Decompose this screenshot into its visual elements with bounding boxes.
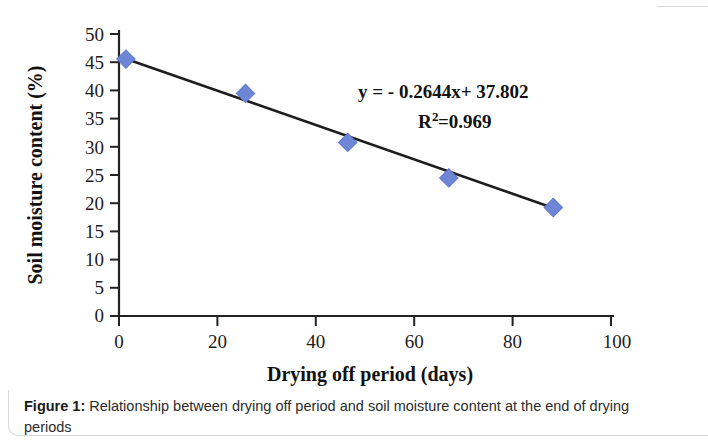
- scatter-plot: 0 5 10 15 20 25 30 35 40 45 50: [0, 0, 657, 390]
- y-tick-label-10: 10: [85, 249, 104, 270]
- figure-caption-label: Figure 1:: [24, 398, 85, 414]
- y-axis-title: Soil moisture content (%): [24, 65, 47, 284]
- x-tick-label-0: 0: [114, 331, 124, 352]
- y-tick-label-5: 5: [95, 277, 105, 298]
- y-tick-label-45: 45: [85, 52, 104, 73]
- y-tick-label-35: 35: [85, 108, 104, 129]
- y-tick-label-25: 25: [85, 165, 104, 186]
- r-squared-prefix: R: [418, 111, 432, 132]
- y-tick-label-15: 15: [85, 221, 104, 242]
- x-tick-label-60: 60: [405, 331, 424, 352]
- r-squared-value: =0.969: [438, 111, 492, 132]
- y-tick-label-0: 0: [95, 305, 105, 326]
- figure-caption-text: Relationship between drying off period a…: [24, 398, 629, 435]
- y-tick-label-20: 20: [85, 193, 104, 214]
- regression-equation-label: y = - 0.2644x+ 37.802: [358, 81, 528, 102]
- x-tick-label-100: 100: [603, 331, 632, 352]
- r-squared-label: R 2 =0.969: [418, 109, 492, 132]
- chart-figure: 0 5 10 15 20 25 30 35 40 45 50: [0, 0, 657, 390]
- x-tick-label-20: 20: [208, 331, 227, 352]
- x-axis-title: Drying off period (days): [267, 363, 473, 386]
- y-tick-label-30: 30: [85, 137, 104, 158]
- y-tick-label-40: 40: [85, 80, 104, 101]
- y-tick-label-50: 50: [85, 24, 104, 45]
- x-tick-label-40: 40: [306, 331, 325, 352]
- figure-caption: Figure 1: Relationship between drying of…: [24, 396, 634, 437]
- x-tick-label-80: 80: [503, 331, 522, 352]
